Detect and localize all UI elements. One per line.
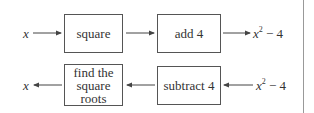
square-box: square [64, 14, 123, 53]
add-4-box-label: add 4 [175, 27, 204, 40]
output-rest: − 4 [263, 26, 283, 41]
top-input-label: x [23, 27, 29, 40]
square-box-label: square [77, 27, 111, 40]
subtract-4-box: subtract 4 [157, 66, 221, 105]
bottom-input-label: x2 − 4 [256, 79, 286, 92]
add-4-box: add 4 [157, 14, 221, 53]
page-margin-line [303, 0, 304, 113]
find-roots-line3: roots [81, 92, 107, 105]
subtract-4-box-label: subtract 4 [164, 79, 215, 92]
find-square-roots-box: find the square roots [64, 64, 123, 106]
top-output-label: x2 − 4 [253, 27, 283, 40]
bottom-output-label: x [23, 79, 29, 92]
find-roots-line2: square [77, 79, 111, 92]
input-rest: − 4 [266, 78, 286, 93]
find-roots-line1: find the [73, 66, 113, 79]
